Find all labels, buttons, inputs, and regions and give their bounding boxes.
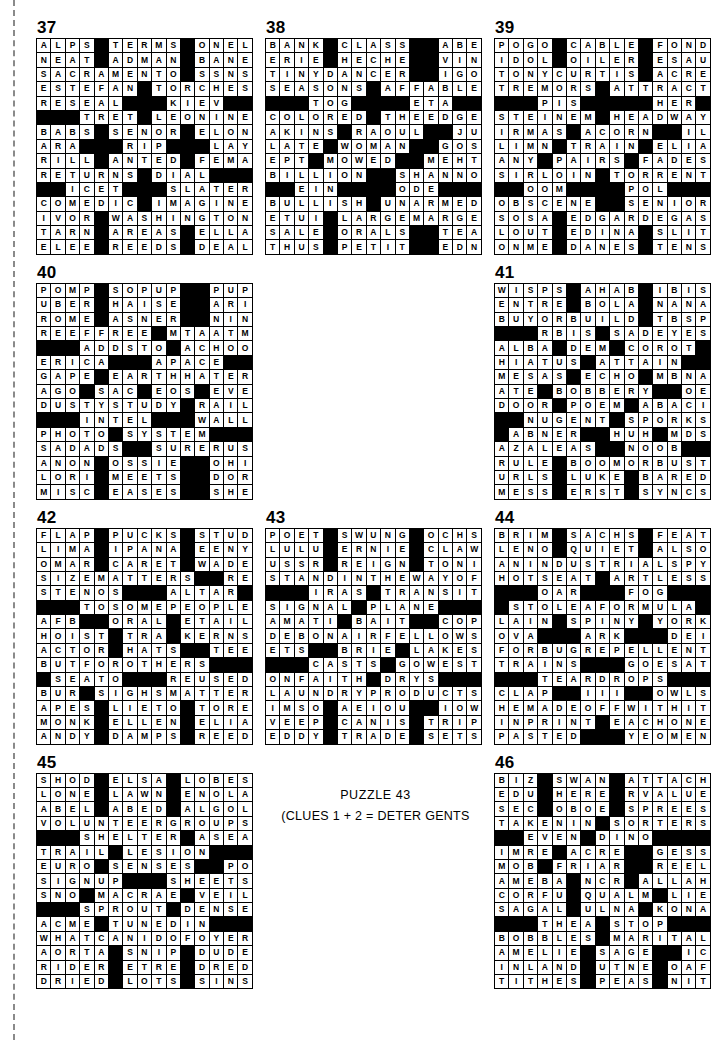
letter-cell[interactable]: B bbox=[352, 615, 366, 629]
letter-cell[interactable]: H bbox=[224, 456, 238, 470]
letter-cell[interactable]: O bbox=[595, 298, 609, 312]
letter-cell[interactable]: S bbox=[682, 845, 696, 859]
letter-cell[interactable]: I bbox=[238, 456, 252, 470]
letter-cell[interactable]: O bbox=[65, 427, 79, 441]
letter-cell[interactable]: R bbox=[94, 960, 108, 974]
letter-cell[interactable]: F bbox=[94, 327, 108, 341]
letter-cell[interactable]: P bbox=[108, 874, 122, 888]
letter-cell[interactable]: I bbox=[595, 543, 609, 557]
letter-cell[interactable]: H bbox=[638, 427, 652, 441]
letter-cell[interactable]: E bbox=[238, 571, 252, 585]
letter-cell[interactable]: R bbox=[624, 787, 638, 801]
letter-cell[interactable]: R bbox=[653, 168, 667, 182]
letter-cell[interactable]: N bbox=[409, 600, 423, 614]
letter-cell[interactable]: T bbox=[624, 82, 638, 96]
letter-cell[interactable]: D bbox=[166, 917, 180, 931]
letter-cell[interactable]: M bbox=[238, 327, 252, 341]
letter-cell[interactable]: M bbox=[667, 427, 681, 441]
letter-cell[interactable]: O bbox=[51, 470, 65, 484]
letter-cell[interactable]: S bbox=[224, 903, 238, 917]
letter-cell[interactable]: A bbox=[682, 874, 696, 888]
letter-cell[interactable]: O bbox=[224, 211, 238, 225]
letter-cell[interactable]: A bbox=[166, 586, 180, 600]
letter-cell[interactable]: S bbox=[152, 298, 166, 312]
letter-cell[interactable]: H bbox=[667, 701, 681, 715]
letter-cell[interactable]: H bbox=[51, 931, 65, 945]
letter-cell[interactable]: R bbox=[123, 139, 137, 153]
letter-cell[interactable]: D bbox=[152, 240, 166, 254]
letter-cell[interactable]: R bbox=[624, 600, 638, 614]
letter-cell[interactable]: R bbox=[682, 96, 696, 110]
letter-cell[interactable]: E bbox=[123, 327, 137, 341]
letter-cell[interactable]: A bbox=[137, 615, 151, 629]
letter-cell[interactable]: C bbox=[595, 874, 609, 888]
letter-cell[interactable]: L bbox=[123, 715, 137, 729]
letter-cell[interactable]: H bbox=[381, 571, 395, 585]
letter-cell[interactable]: E bbox=[166, 456, 180, 470]
letter-cell[interactable]: E bbox=[467, 39, 481, 53]
letter-cell[interactable]: B bbox=[37, 687, 51, 701]
letter-cell[interactable]: P bbox=[94, 903, 108, 917]
letter-cell[interactable]: L bbox=[552, 903, 566, 917]
letter-cell[interactable]: W bbox=[137, 787, 151, 801]
letter-cell[interactable]: I bbox=[453, 715, 467, 729]
letter-cell[interactable]: S bbox=[552, 125, 566, 139]
letter-cell[interactable]: T bbox=[152, 643, 166, 657]
letter-cell[interactable]: R bbox=[137, 557, 151, 571]
letter-cell[interactable]: L bbox=[238, 240, 252, 254]
letter-cell[interactable]: U bbox=[395, 701, 409, 715]
letter-cell[interactable]: S bbox=[624, 528, 638, 542]
letter-cell[interactable]: L bbox=[294, 543, 308, 557]
letter-cell[interactable]: E bbox=[152, 485, 166, 499]
letter-cell[interactable]: T bbox=[152, 82, 166, 96]
letter-cell[interactable]: S bbox=[166, 485, 180, 499]
letter-cell[interactable]: G bbox=[566, 643, 580, 657]
letter-cell[interactable]: Y bbox=[238, 139, 252, 153]
letter-cell[interactable]: S bbox=[495, 903, 509, 917]
letter-cell[interactable]: N bbox=[37, 53, 51, 67]
letter-cell[interactable]: U bbox=[395, 125, 409, 139]
letter-cell[interactable]: N bbox=[209, 312, 223, 326]
letter-cell[interactable]: C bbox=[65, 67, 79, 81]
letter-cell[interactable]: R bbox=[509, 82, 523, 96]
letter-cell[interactable]: I bbox=[610, 139, 624, 153]
letter-cell[interactable]: N bbox=[123, 82, 137, 96]
letter-cell[interactable]: O bbox=[309, 701, 323, 715]
letter-cell[interactable]: E bbox=[80, 370, 94, 384]
letter-cell[interactable]: R bbox=[137, 39, 151, 53]
letter-cell[interactable]: N bbox=[80, 456, 94, 470]
letter-cell[interactable]: T bbox=[280, 571, 294, 585]
letter-cell[interactable]: S bbox=[523, 197, 537, 211]
letter-cell[interactable]: L bbox=[152, 615, 166, 629]
letter-cell[interactable]: N bbox=[323, 629, 337, 643]
letter-cell[interactable]: K bbox=[653, 903, 667, 917]
letter-cell[interactable]: R bbox=[682, 615, 696, 629]
letter-cell[interactable]: G bbox=[552, 413, 566, 427]
letter-cell[interactable]: B bbox=[552, 384, 566, 398]
letter-cell[interactable]: N bbox=[682, 39, 696, 53]
letter-cell[interactable]: M bbox=[65, 283, 79, 297]
letter-cell[interactable]: A bbox=[523, 629, 537, 643]
letter-cell[interactable]: B bbox=[509, 197, 523, 211]
letter-cell[interactable]: T bbox=[108, 182, 122, 196]
letter-cell[interactable]: D bbox=[453, 240, 467, 254]
letter-cell[interactable]: D bbox=[381, 154, 395, 168]
letter-cell[interactable]: W bbox=[424, 658, 438, 672]
letter-cell[interactable]: D bbox=[108, 341, 122, 355]
letter-cell[interactable]: N bbox=[180, 211, 194, 225]
letter-cell[interactable]: A bbox=[667, 398, 681, 412]
letter-cell[interactable]: T bbox=[624, 355, 638, 369]
letter-cell[interactable]: S bbox=[696, 240, 710, 254]
letter-cell[interactable]: I bbox=[523, 528, 537, 542]
letter-cell[interactable]: L bbox=[238, 802, 252, 816]
letter-cell[interactable]: I bbox=[682, 701, 696, 715]
letter-cell[interactable]: L bbox=[523, 470, 537, 484]
letter-cell[interactable]: Z bbox=[523, 773, 537, 787]
letter-cell[interactable]: R bbox=[166, 831, 180, 845]
letter-cell[interactable]: T bbox=[80, 53, 94, 67]
letter-cell[interactable]: G bbox=[195, 211, 209, 225]
letter-cell[interactable]: T bbox=[166, 557, 180, 571]
letter-cell[interactable]: T bbox=[137, 154, 151, 168]
letter-cell[interactable]: S bbox=[108, 600, 122, 614]
letter-cell[interactable]: C bbox=[523, 802, 537, 816]
